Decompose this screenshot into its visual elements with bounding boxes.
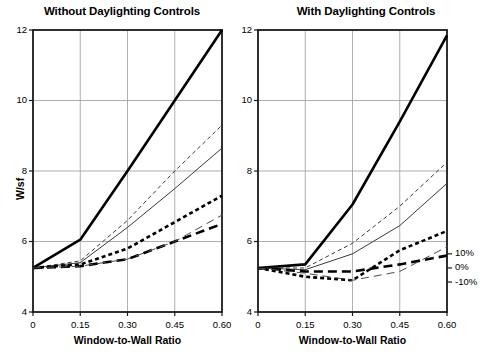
y-tick-label: 12 — [224, 24, 252, 35]
plot-svg-left — [0, 0, 244, 357]
x-axis-label-left: Window-to-Wall Ratio — [33, 334, 222, 346]
y-tick-label: 8 — [0, 165, 27, 176]
y-tick-label: 6 — [224, 235, 252, 246]
y-tick-label: 8 — [224, 165, 252, 176]
y-tick-label: 4 — [224, 306, 252, 317]
y-axis-label-left: W/sf — [14, 178, 26, 200]
chart-panel-with-daylighting: With Daylighting Controls Window-to-Wall… — [244, 0, 488, 357]
x-tick-label: 0.30 — [331, 319, 375, 330]
y-tick-label: 10 — [0, 94, 27, 105]
y-tick-label: 4 — [0, 306, 27, 317]
x-tick-label: 0.15 — [58, 319, 102, 330]
legend-label: -10% — [455, 276, 477, 287]
x-tick-label: 0 — [236, 319, 280, 330]
x-tick-label: 0.30 — [106, 319, 150, 330]
y-tick-label: 10 — [224, 94, 252, 105]
figure-root: Without Daylighting Controls W/sf Window… — [0, 0, 488, 357]
x-tick-label: 0.45 — [153, 319, 197, 330]
x-tick-label: 0.15 — [283, 319, 327, 330]
axis-ticks — [254, 30, 447, 316]
plot-svg-right — [244, 0, 488, 357]
x-tick-label: 0 — [11, 319, 55, 330]
legend-label: 0% — [455, 261, 469, 272]
chart-panel-without-daylighting: Without Daylighting Controls W/sf Window… — [0, 0, 244, 357]
x-tick-label: 0.45 — [378, 319, 422, 330]
x-axis-label-right: Window-to-Wall Ratio — [258, 334, 447, 346]
y-tick-label: 6 — [0, 235, 27, 246]
legend-label: 10% — [455, 247, 474, 258]
y-tick-label: 12 — [0, 24, 27, 35]
x-tick-label: 0.60 — [425, 319, 469, 330]
